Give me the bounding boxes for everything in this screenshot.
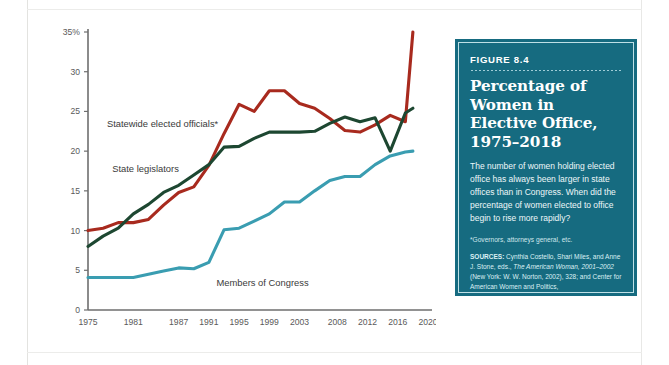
line-chart: 05101520253035% 197519811987199119951999… [36,22,436,342]
sources-title-italic: The American Woman, 2001–2002 [513,263,614,270]
series-label-0: Statewide elected officials* [107,118,219,129]
page-edge-left [27,0,28,365]
series-label-2: Members of Congress [216,277,309,288]
y-tick-label: 0 [75,305,80,315]
figure-sources: SOURCES: Cynthia Costello, Shari Miles, … [470,252,622,293]
figure-callout-box: FIGURE 8.4 Percentage of Women in Electi… [455,39,637,296]
x-tick-label: 1975 [78,317,97,327]
x-tick-label: 2016 [388,317,407,327]
series-label-1: State legislators [112,163,179,174]
page-canvas: 05101520253035% 197519811987199119951999… [0,0,669,365]
chart-svg: 05101520253035% 197519811987199119951999… [36,22,436,342]
y-tick-label: 30 [70,67,80,77]
sources-label: SOURCES: [470,253,504,260]
page-edge-bottom [27,352,642,353]
y-tick-label: 5 [75,265,80,275]
x-tick-label: 1987 [169,317,188,327]
x-tick-label: 2003 [290,317,309,327]
x-tick-label: 1981 [124,317,143,327]
figure-callout-inner: FIGURE 8.4 Percentage of Women in Electi… [458,42,634,293]
page-edge-right [641,0,642,365]
y-axis-ticks: 05101520253035% [63,27,88,315]
x-tick-label: 1999 [260,317,279,327]
series-line-0 [88,32,413,231]
y-tick-label: 15 [70,186,80,196]
figure-description: The number of women holding elected offi… [470,160,622,225]
y-tick-label: 35% [63,27,81,37]
figure-footnote: *Governors, attorneys general, etc. [470,235,622,244]
figure-number-label: FIGURE 8.4 [470,54,622,65]
x-axis-ticks: 1975198119871991199519992003200820122016… [78,317,436,327]
sources-text-part2: (New York: W. W. Norton, 2002), 328; and… [470,273,621,293]
page-edge-top [27,9,642,10]
y-tick-label: 20 [70,146,80,156]
x-tick-label: 1991 [199,317,218,327]
y-tick-label: 25 [70,106,80,116]
x-tick-label: 2012 [358,317,377,327]
y-tick-label: 10 [70,226,80,236]
x-tick-label: 2020 [418,317,436,327]
dotted-divider [470,68,622,71]
chart-series-group [88,32,413,277]
x-tick-label: 2008 [328,317,347,327]
figure-title: Percentage of Women in Elective Office, … [470,77,622,151]
x-tick-label: 1995 [230,317,249,327]
